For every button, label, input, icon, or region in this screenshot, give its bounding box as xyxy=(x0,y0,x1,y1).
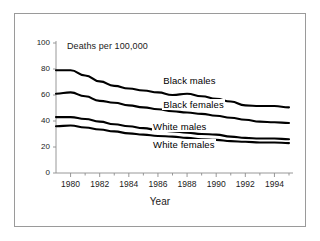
x-tick-label: 1986 xyxy=(143,179,173,189)
y-tick-label: 100 xyxy=(28,38,50,47)
y-tick-label: 60 xyxy=(28,90,50,99)
x-tick-label: 1984 xyxy=(114,179,144,189)
chart-figure: Deaths per 100,000 020406080100 19801982… xyxy=(0,0,320,241)
x-tick-label: 1982 xyxy=(85,179,115,189)
y-tick-label: 0 xyxy=(28,168,50,177)
y-tick-label: 20 xyxy=(28,142,50,151)
y-axis-label: Deaths per 100,000 xyxy=(67,41,148,51)
series-label: White females xyxy=(152,139,216,150)
x-tick-label: 1992 xyxy=(230,179,260,189)
x-tick-label: 1980 xyxy=(56,179,86,189)
x-tick-label: 1994 xyxy=(259,179,289,189)
series-label: White males xyxy=(152,121,207,132)
y-tick-label: 40 xyxy=(28,116,50,125)
series-label: Black females xyxy=(162,99,224,110)
x-axis-label: Year xyxy=(0,196,320,207)
x-tick-label: 1990 xyxy=(201,179,231,189)
x-tick-label: 1988 xyxy=(172,179,202,189)
chart-frame: Deaths per 100,000 020406080100 19801982… xyxy=(14,13,306,227)
series-label: Black males xyxy=(162,75,216,86)
y-tick-label: 80 xyxy=(28,64,50,73)
